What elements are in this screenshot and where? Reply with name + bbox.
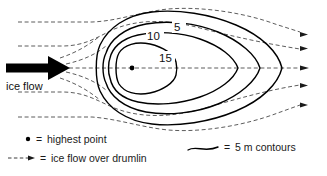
legend-label-contours: 5 m contours	[235, 141, 296, 153]
legend-highest-point: = highest point	[26, 133, 107, 145]
streamline-5	[18, 105, 300, 131]
legend-ice-flow-over-drumlin: = ice flow over drumlin	[8, 152, 147, 164]
streamline-stub-lower	[66, 72, 106, 90]
contour-15m	[116, 43, 177, 94]
legend-equals-3: =	[224, 141, 230, 153]
arrowhead-2	[300, 46, 308, 51]
legend-equals-1: =	[36, 133, 42, 145]
legend-dashed-arrowhead-icon	[28, 156, 35, 161]
arrowhead-4	[300, 83, 308, 88]
legend-label-highest-point: highest point	[47, 133, 107, 145]
contour-label-10: 10	[147, 30, 160, 42]
arrowhead-3	[300, 66, 309, 71]
streamline-stub-lower-2	[60, 78, 100, 100]
ice-flow-arrow-shaft	[6, 64, 50, 73]
streamline-arrowheads	[300, 32, 309, 108]
ice-flow-arrow	[6, 56, 70, 80]
arrowhead-1	[300, 32, 308, 37]
contour-label-5: 5	[174, 21, 180, 33]
ice-flow-label: ice flow	[6, 80, 43, 92]
streamline-stub-upper-2	[60, 36, 100, 58]
contour-label-15: 15	[159, 52, 172, 64]
contour-inner-band	[109, 33, 239, 104]
arrowhead-5	[300, 103, 308, 108]
highest-point-dot	[130, 66, 135, 71]
legend-contours: = 5 m contours	[188, 141, 296, 153]
legend-contour-curve-icon	[188, 147, 218, 150]
streamline-stub-upper	[66, 46, 106, 64]
legend-equals-2: =	[40, 152, 46, 164]
drumlin-diagram: 5 10 15 ice flow = highest point = ice f…	[0, 0, 327, 176]
legend-label-ice-flow: ice flow over drumlin	[51, 152, 147, 164]
ice-flow-arrow-head	[48, 56, 70, 80]
drumlin-contour-map: 5 10 15 ice flow = highest point = ice f…	[0, 0, 327, 176]
legend-dot-icon	[26, 137, 30, 141]
